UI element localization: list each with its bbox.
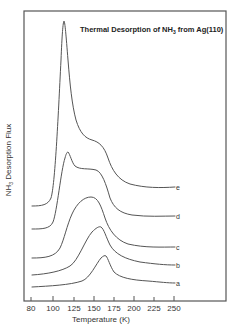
y-axis-label: NH3 Desorption Flux	[4, 124, 14, 197]
x-tick-label: 150	[87, 304, 101, 313]
curve-labels: e d c b a	[176, 184, 180, 287]
tpd-chart: Thermal Desorption of NH3 from Ag(110) N…	[0, 0, 236, 329]
label-b: b	[176, 262, 180, 269]
curve-b	[32, 227, 175, 275]
x-tick-label: 80	[27, 304, 36, 313]
x-tick-label: 200	[127, 304, 141, 313]
curve-d	[32, 152, 175, 229]
x-tick-label: 125	[67, 304, 81, 313]
label-d: d	[176, 213, 180, 220]
x-tick-label: 100	[46, 304, 60, 313]
x-tick-label: 175	[107, 304, 121, 313]
curve-a	[32, 256, 175, 287]
curve-c	[32, 197, 175, 258]
label-a: a	[176, 280, 180, 287]
x-tick-label: 250	[167, 304, 181, 313]
x-axis: 80 100 125 150 175 200 225 250 Temperatu…	[27, 296, 182, 324]
x-axis-label: Temperature (K)	[72, 315, 130, 324]
chart-title: Thermal Desorption of NH3 from Ag(110)	[80, 25, 224, 35]
label-e: e	[176, 184, 180, 191]
label-c: c	[176, 244, 180, 251]
curves	[32, 21, 175, 287]
x-tick-label: 225	[147, 304, 161, 313]
